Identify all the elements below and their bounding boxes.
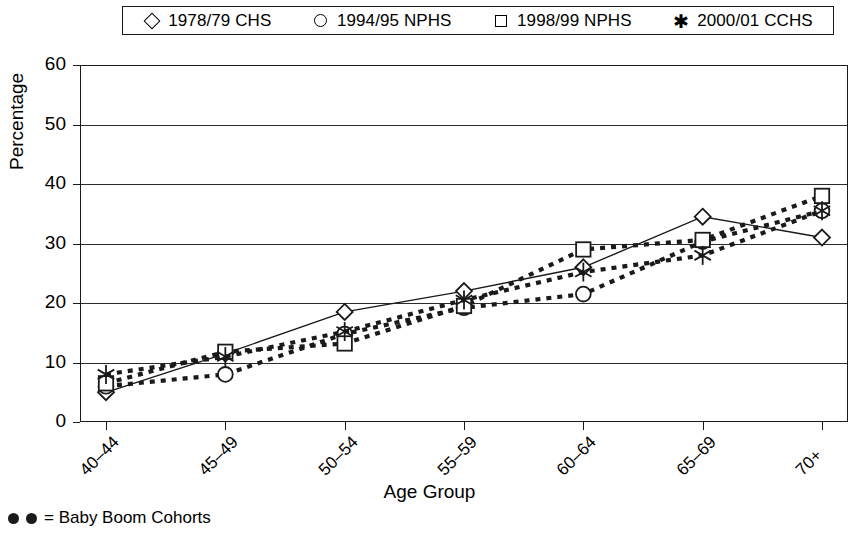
legend-item-1994-95-nphs: 1994/95 NPHS [312,11,452,31]
legend-item-1998-99-nphs: 1998/99 NPHS [492,11,632,31]
y-axis-tick-label: 60 [24,53,66,75]
y-axis-tick [73,125,80,126]
legend-item-1978-79-chs: 1978/79 CHS [143,11,271,31]
chart-legend: 1978/79 CHS 1994/95 NPHS 1998/99 NPHS ✱ … [122,6,834,35]
y-axis-tick-label: 0 [24,410,66,432]
x-axis-tick [583,422,584,430]
x-axis-tick [106,422,107,430]
dot-icon [8,513,19,524]
x-axis-tick [345,422,346,430]
legend-label: 1978/79 CHS [168,11,271,31]
y-axis-tick [73,363,80,364]
x-axis-tick [464,422,465,430]
x-axis-tick [822,422,823,430]
x-axis-tick-label: 60–64 [553,433,601,481]
y-axis-tick [73,244,80,245]
y-axis-tick [73,65,80,66]
x-axis-tick-label: 50–54 [315,433,363,481]
y-axis-tick-label: 10 [24,351,66,373]
y-axis-tick-label: 50 [24,113,66,135]
star-marker-icon: ✱ [672,12,690,30]
gridline [81,125,847,126]
gridline [81,363,847,364]
gridline [81,184,847,185]
x-axis-tick-label: 40–44 [76,433,124,481]
footnote-label: = Baby Boom Cohorts [44,508,211,528]
x-axis-tick [703,422,704,430]
y-axis-tick [73,422,80,423]
x-axis-tick [225,422,226,430]
y-axis-tick-label: 30 [24,232,66,254]
y-axis-tick [73,184,80,185]
legend-label: 1998/99 NPHS [517,11,632,31]
plot-area [80,65,848,422]
legend-label: 2000/01 CCHS [697,11,813,31]
x-axis-tick-label: 70+ [792,446,827,481]
dot-icon [26,513,37,524]
circle-marker-icon [312,12,330,30]
y-axis-tick-label: 20 [24,291,66,313]
baby-boom-footnote: = Baby Boom Cohorts [8,508,211,528]
gridline [81,244,847,245]
chart-figure: 1978/79 CHS 1994/95 NPHS 1998/99 NPHS ✱ … [0,0,859,539]
y-axis-tick-label: 40 [24,172,66,194]
diamond-marker-icon [143,12,161,30]
legend-item-2000-01-cchs: ✱ 2000/01 CCHS [672,11,813,31]
x-axis-tick-label: 55–59 [434,433,482,481]
square-marker-icon [492,12,510,30]
x-axis-tick-label: 45–49 [195,433,243,481]
x-axis-label: Age Group [0,481,859,503]
y-axis-tick [73,303,80,304]
x-axis-tick-label: 65–69 [673,433,721,481]
legend-label: 1994/95 NPHS [337,11,452,31]
gridline [81,303,847,304]
